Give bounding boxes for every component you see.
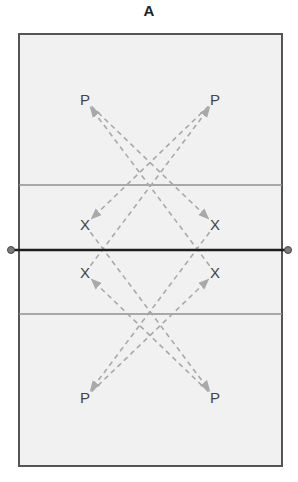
marker-x-lower-right: X bbox=[210, 264, 220, 281]
marker-p-top-left: P bbox=[80, 91, 90, 108]
net-post-left bbox=[8, 247, 15, 254]
marker-x-lower-left: X bbox=[80, 264, 90, 281]
marker-x-upper-left: X bbox=[80, 216, 90, 233]
marker-p-bottom-right: P bbox=[210, 389, 220, 406]
marker-p-bottom-left: P bbox=[80, 389, 90, 406]
net-post-right bbox=[285, 247, 292, 254]
volleyball-court-diagram: PPXXXXPP bbox=[0, 0, 298, 482]
marker-x-upper-right: X bbox=[210, 216, 220, 233]
marker-p-top-right: P bbox=[210, 91, 220, 108]
